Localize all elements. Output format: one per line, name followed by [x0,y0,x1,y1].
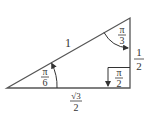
svg-text:2: 2 [136,60,142,72]
angle-label-left: π 6 [41,66,49,88]
angle-label-right: π 2 [115,67,123,89]
svg-text:√3: √3 [71,91,81,101]
base-side-label: √3 2 [70,91,82,113]
svg-text:3: 3 [120,35,125,46]
hypotenuse-label: 1 [65,36,71,50]
angle-arc-left [52,64,57,89]
vertical-side-label: 1 2 [134,46,144,72]
svg-text:π: π [116,67,121,78]
angle-label-top: π 3 [118,24,126,46]
svg-text:6: 6 [43,77,48,88]
svg-text:2: 2 [74,102,79,113]
triangle-outline [7,18,130,88]
triangle-diagram: 1 1 2 √3 2 π 6 π 3 π 2 [0,0,149,115]
svg-text:2: 2 [117,78,122,89]
svg-text:1: 1 [136,46,142,58]
svg-text:π: π [119,24,124,35]
svg-text:π: π [42,66,47,77]
